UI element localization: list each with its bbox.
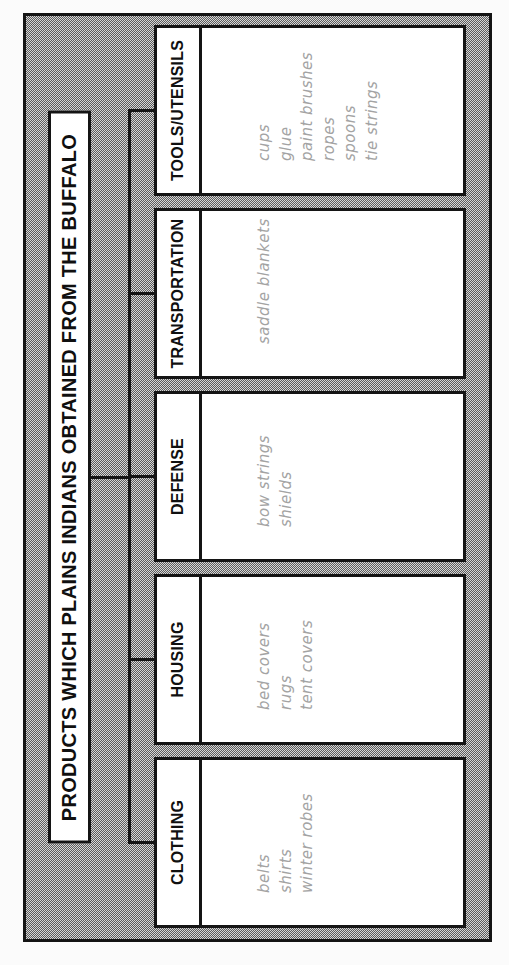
item-text: paint brushes [297, 32, 319, 161]
item-text: spoons [340, 32, 362, 161]
connector-branch-transportation [128, 292, 157, 295]
item-text: tent covers [297, 581, 319, 710]
connector-branch-housing [128, 658, 157, 661]
item-text: winter robes [297, 764, 319, 893]
connector-branch-clothing [128, 841, 157, 844]
category-label-tools-utensils: TOOLS/UTENSILS [157, 28, 202, 193]
category-label-clothing: CLOTHING [157, 760, 202, 925]
diagram-title-box: PRODUCTS WHICH PLAINS INDIANS OBTAINED F… [48, 111, 91, 844]
category-box-tools-utensils: TOOLS/UTENSILS cupsgluepaint brushesrope… [154, 25, 466, 196]
item-text: shirts [276, 764, 298, 893]
category-box-defense: DEFENSE bow stringsshields [154, 391, 466, 562]
category-label-housing: HOUSING [157, 577, 202, 742]
diagram-frame: PRODUCTS WHICH PLAINS INDIANS OBTAINED F… [23, 13, 492, 942]
diagram-title: PRODUCTS WHICH PLAINS INDIANS OBTAINED F… [58, 134, 81, 821]
category-items-housing: bed coversrugstent covers [202, 577, 319, 742]
category-label-defense: DEFENSE [157, 394, 202, 559]
item-text: glue [276, 32, 298, 161]
item-text: tie strings [362, 32, 384, 161]
connector-title-stem [91, 476, 129, 479]
rotated-canvas: PRODUCTS WHICH PLAINS INDIANS OBTAINED F… [0, 0, 509, 965]
item-text: shields [276, 398, 298, 527]
category-box-housing: HOUSING bed coversrugstent covers [154, 574, 466, 745]
item-text: bow strings [254, 398, 276, 527]
category-items-clothing: beltsshirtswinter robes [202, 760, 319, 925]
category-items-transportation: saddle blankets [202, 211, 276, 376]
item-text: saddle blankets [254, 215, 276, 344]
item-text: cups [254, 32, 276, 161]
category-items-defense: bow stringsshields [202, 394, 297, 559]
item-text: bed covers [254, 581, 276, 710]
item-text: belts [254, 764, 276, 893]
category-items-tools-utensils: cupsgluepaint brushesropesspoonstie stri… [202, 28, 383, 193]
category-row: CLOTHING beltsshirtswinter robes HOUSING… [154, 25, 466, 928]
item-text: rugs [276, 581, 298, 710]
connector-branch-tools-utensils [128, 109, 157, 112]
category-label-transportation: TRANSPORTATION [157, 211, 202, 376]
item-text: ropes [319, 32, 341, 161]
category-box-transportation: TRANSPORTATION saddle blankets [154, 208, 466, 379]
worksheet-page: PRODUCTS WHICH PLAINS INDIANS OBTAINED F… [0, 0, 509, 965]
category-box-clothing: CLOTHING beltsshirtswinter robes [154, 757, 466, 928]
connector-branch-defense [128, 475, 157, 478]
